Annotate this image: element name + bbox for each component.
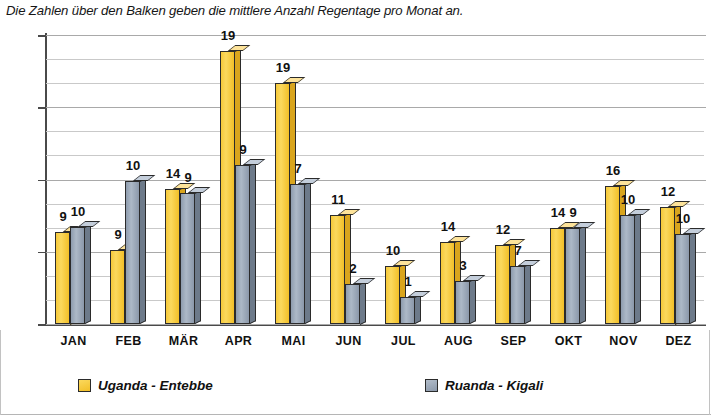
bar-front-face	[110, 250, 125, 324]
bar-value-label: 16	[600, 163, 626, 178]
bar-uganda	[220, 51, 235, 324]
bar-front-face	[275, 83, 290, 324]
bar-front-face	[55, 232, 70, 325]
month-label-jul: JUL	[376, 334, 431, 348]
bar-uganda	[55, 232, 70, 325]
bar-front-face	[345, 284, 360, 325]
bar-side-face	[250, 162, 256, 324]
bar-group: 149	[541, 35, 596, 324]
month-label-jan: JAN	[46, 334, 101, 348]
bar-uganda	[110, 250, 125, 324]
bar-ruanda	[620, 215, 635, 324]
bar-front-face	[70, 227, 85, 324]
bar-ruanda	[400, 297, 415, 324]
bar-side-face	[580, 225, 586, 324]
bar-value-label: 12	[655, 184, 681, 199]
bar-side-face	[140, 178, 146, 324]
month-label-okt: OKT	[541, 334, 596, 348]
bar-value-label: 11	[325, 192, 351, 207]
bar-value-label: 10	[65, 204, 91, 219]
bar-front-face	[290, 184, 305, 324]
bar-front-face	[125, 181, 140, 324]
x-axis-month-labels: JANFEBMÄRAPRMAIJUNJULAUGSEPOKTNOVDEZ	[46, 334, 706, 354]
bar-value-label: 3	[450, 258, 476, 273]
bar-value-label: 2	[340, 261, 366, 276]
month-label-jun: JUN	[321, 334, 376, 348]
month-label-apr: APR	[211, 334, 266, 348]
bar-side-face	[85, 224, 91, 324]
legend-label-ruanda: Ruanda - Kigali	[445, 378, 543, 393]
bar-uganda	[440, 242, 455, 324]
frame-left-border	[0, 330, 1, 415]
bar-group: 112	[321, 35, 376, 324]
bar-side-face	[360, 281, 366, 324]
bar-front-face	[165, 189, 180, 324]
legend-item-uganda: Uganda - Entebbe	[78, 378, 213, 393]
bar-value-label: 9	[175, 170, 201, 185]
bar-group: 1210	[651, 35, 706, 324]
bar-group: 143	[431, 35, 486, 324]
bar-front-face	[510, 266, 525, 324]
month-label-nov: NOV	[596, 334, 651, 348]
bar-group: 910	[46, 35, 101, 324]
month-label-feb: FEB	[101, 334, 156, 348]
month-label-mär: MÄR	[156, 334, 211, 348]
chart-caption: Die Zahlen über den Balken geben die mit…	[6, 3, 463, 18]
bar-value-label: 1	[395, 274, 421, 289]
bar-side-face	[690, 231, 696, 324]
month-label-aug: AUG	[431, 334, 486, 348]
bar-group: 910	[101, 35, 156, 324]
bar-ruanda	[70, 227, 85, 324]
bar-value-label: 10	[670, 211, 696, 226]
bar-side-face	[305, 181, 311, 324]
bar-ruanda	[345, 284, 360, 325]
bar-front-face	[565, 228, 580, 324]
bar-side-face	[470, 278, 476, 324]
bar-front-face	[180, 193, 195, 324]
bar-value-label: 9	[230, 142, 256, 157]
plot-area: 91091014919919711210114312714916101210	[46, 35, 706, 324]
y-axis-labels: 075150225300	[0, 35, 46, 324]
frame-right-border	[709, 330, 710, 415]
bar-ruanda	[125, 181, 140, 324]
bar-value-label: 7	[505, 243, 531, 258]
bar-ruanda	[235, 165, 250, 324]
gridline-major	[46, 324, 706, 325]
bar-group: 101	[376, 35, 431, 324]
bar-front-face	[235, 165, 250, 324]
bar-uganda	[550, 228, 565, 324]
bar-group: 127	[486, 35, 541, 324]
bar-front-face	[220, 51, 235, 324]
bar-ruanda	[510, 266, 525, 324]
bar-value-label: 10	[380, 243, 406, 258]
bar-side-face	[525, 263, 531, 324]
month-label-mai: MAI	[266, 334, 321, 348]
legend-swatch-uganda-icon	[78, 379, 91, 392]
bar-value-label: 19	[215, 28, 241, 43]
bar-group: 199	[211, 35, 266, 324]
legend-label-uganda: Uganda - Entebbe	[98, 378, 213, 393]
bar-ruanda	[180, 193, 195, 324]
legend-swatch-ruanda-icon	[425, 379, 438, 392]
legend-item-ruanda: Ruanda - Kigali	[425, 378, 543, 393]
bar-front-face	[455, 281, 470, 324]
bar-uganda	[275, 83, 290, 324]
bar-value-label: 9	[560, 205, 586, 220]
bar-front-face	[550, 228, 565, 324]
bar-side-face	[195, 190, 201, 324]
bar-value-label: 10	[615, 192, 641, 207]
chart-legend: Uganda - Entebbe Ruanda - Kigali	[0, 376, 711, 402]
bar-group: 149	[156, 35, 211, 324]
bar-ruanda	[565, 228, 580, 324]
bar-ruanda	[455, 281, 470, 324]
rainfall-bar-chart: Regentage pro Monat Die Zahlen über den …	[0, 0, 711, 420]
bar-side-face	[635, 212, 641, 324]
bar-front-face	[440, 242, 455, 324]
bar-value-label: 7	[285, 161, 311, 176]
bar-side-face	[415, 294, 421, 324]
bar-front-face	[400, 297, 415, 324]
bar-value-label: 19	[270, 60, 296, 75]
bar-front-face	[620, 215, 635, 324]
bar-value-label: 14	[435, 219, 461, 234]
month-label-dez: DEZ	[651, 334, 706, 348]
